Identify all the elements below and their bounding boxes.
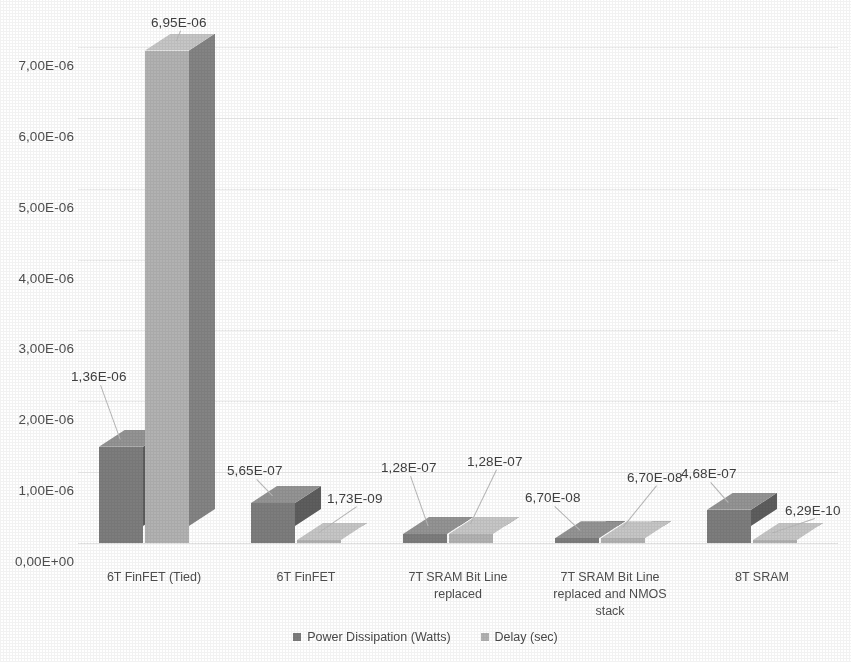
bar-delay[interactable] (145, 51, 189, 543)
data-label-leader-line (100, 385, 121, 440)
data-label: 6,70E-08 (627, 470, 683, 485)
y-axis-tick-label: 0,00E+00 (0, 554, 74, 569)
x-axis-category-label: 7T SRAM Bit Line replaced and NMOS stack (534, 569, 686, 620)
bar-power-dissipation[interactable] (555, 538, 599, 543)
data-label: 4,68E-07 (681, 466, 737, 481)
bar-front-face (601, 538, 645, 543)
bar-front-face (145, 51, 189, 543)
y-axis-tick-label: 4,00E-06 (0, 271, 74, 286)
bar-front-face (449, 534, 493, 543)
legend-label: Power Dissipation (Watts) (307, 630, 450, 644)
bar-front-face (707, 510, 751, 543)
bar-side-face (189, 34, 215, 526)
bar-delay[interactable] (601, 538, 645, 543)
x-axis-category-label: 6T FinFET (Tied) (78, 569, 230, 586)
y-axis: 0,00E+001,00E-062,00E-063,00E-064,00E-06… (0, 20, 74, 550)
bar-top-face (297, 523, 367, 540)
bar-power-dissipation[interactable] (707, 510, 751, 543)
legend-item[interactable]: Power Dissipation (Watts) (293, 630, 450, 644)
data-label: 6,70E-08 (525, 490, 581, 505)
legend-label: Delay (sec) (495, 630, 558, 644)
bar-front-face (753, 540, 797, 543)
bar-delay[interactable] (753, 540, 797, 543)
y-axis-tick-label: 7,00E-06 (0, 58, 74, 73)
bar-delay[interactable] (297, 540, 341, 543)
legend-swatch-icon (293, 633, 301, 641)
data-label: 1,28E-07 (467, 454, 523, 469)
data-label-leader-line (470, 469, 497, 524)
chart-legend: Power Dissipation (Watts)Delay (sec) (0, 630, 851, 644)
bar-front-face (251, 503, 295, 543)
x-axis-category-label: 7T SRAM Bit Line replaced (382, 569, 534, 603)
bar-front-face (297, 540, 341, 543)
bar-power-dissipation[interactable] (403, 534, 447, 543)
data-label-leader-line (710, 482, 728, 503)
y-axis-tick-label: 2,00E-06 (0, 412, 74, 427)
bar-front-face (403, 534, 447, 543)
bar-front-face (555, 538, 599, 543)
data-label-leader-line (410, 476, 429, 527)
data-label: 6,29E-10 (785, 503, 841, 518)
data-label: 1,28E-07 (381, 460, 437, 475)
data-label: 5,65E-07 (227, 463, 283, 478)
plot-area: 1,36E-066,95E-066T FinFET (Tied)5,65E-07… (78, 20, 838, 550)
data-label: 6,95E-06 (151, 15, 207, 30)
legend-item[interactable]: Delay (sec) (481, 630, 558, 644)
bar-power-dissipation[interactable] (99, 447, 143, 543)
legend-swatch-icon (481, 633, 489, 641)
data-label: 1,36E-06 (71, 369, 127, 384)
y-axis-tick-label: 3,00E-06 (0, 341, 74, 356)
bar-top-face (753, 523, 823, 540)
y-axis-tick-label: 1,00E-06 (0, 483, 74, 498)
bar-front-face (99, 447, 143, 543)
y-axis-tick-label: 6,00E-06 (0, 129, 74, 144)
data-label: 1,73E-09 (327, 491, 383, 506)
data-label-leader-line (554, 506, 580, 531)
axis-baseline (78, 543, 838, 544)
y-axis-tick-label: 5,00E-06 (0, 200, 74, 215)
x-axis-category-label: 8T SRAM (686, 569, 838, 586)
x-axis-category-label: 6T FinFET (230, 569, 382, 586)
bar-delay[interactable] (449, 534, 493, 543)
data-label-leader-line (256, 479, 272, 496)
bar-power-dissipation[interactable] (251, 503, 295, 543)
bar-chart: 0,00E+001,00E-062,00E-063,00E-064,00E-06… (0, 0, 851, 662)
